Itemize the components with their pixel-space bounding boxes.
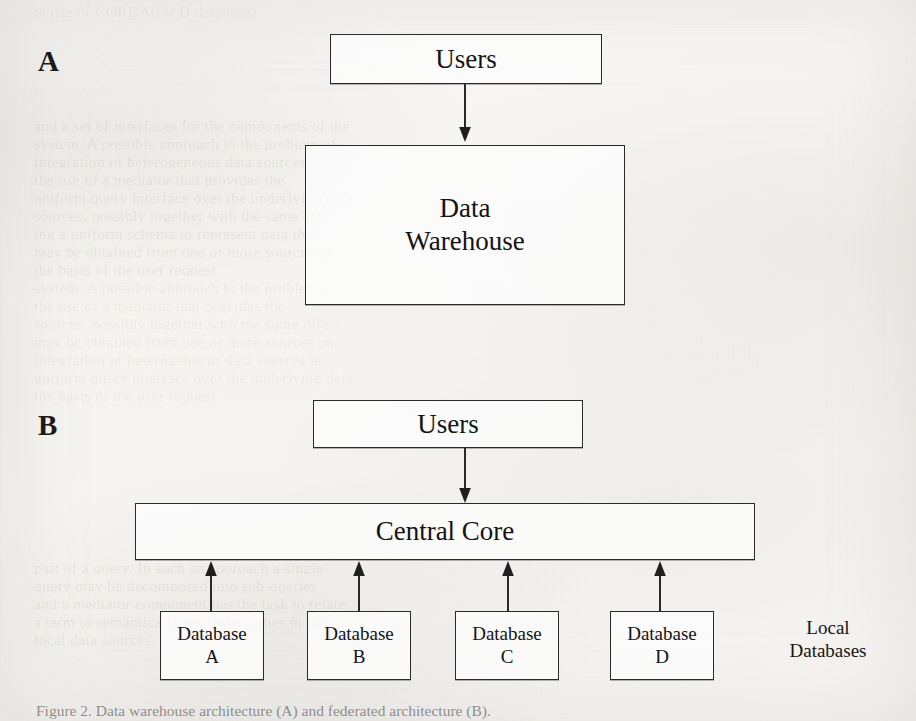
arrow-database-c-to-core <box>496 560 520 612</box>
node-central-core-label: Central Core <box>376 516 515 547</box>
panel-label-b: B <box>38 411 57 440</box>
node-users-panel-a: Users <box>330 34 602 84</box>
ghost-text-line: uniform query interface over the underly… <box>34 370 886 384</box>
node-database-b: Database B <box>307 611 411 680</box>
figure-caption: Figure 2. Data warehouse architecture (A… <box>36 702 886 720</box>
node-users-panel-b-label: Users <box>417 409 479 440</box>
ghost-text-line: te iste of CORBA(for D database) <box>34 4 886 18</box>
arrow-database-b-to-core <box>347 560 371 612</box>
ghost-text-line: sources, possibly together with the same… <box>34 316 886 330</box>
ghost-text-line: query may be decomposed into sub-queries <box>34 578 886 592</box>
node-data-warehouse: Data Warehouse <box>305 145 625 305</box>
ghost-text-line: integration of heterogeneous data source… <box>34 352 886 366</box>
arrow-users-to-central-core <box>452 447 478 505</box>
node-database-c-label: Database C <box>472 623 542 668</box>
node-users-panel-a-label: Users <box>435 44 497 75</box>
arrow-database-d-to-core <box>648 560 672 612</box>
figure-page: te iste of CORBA(for D database) and a s… <box>0 0 916 721</box>
ghost-text-line: and a mediator component has the task to… <box>34 596 886 610</box>
node-central-core: Central Core <box>135 503 755 560</box>
node-users-panel-b: Users <box>313 400 583 448</box>
node-database-a-label: Database A <box>177 623 247 668</box>
node-database-b-label: Database B <box>324 623 394 668</box>
node-data-warehouse-label: Data Warehouse <box>405 192 524 258</box>
node-database-d: Database D <box>610 611 714 680</box>
local-databases-group-label: Local Databases <box>758 616 898 662</box>
ghost-text-line: may be obtained from one or more sources… <box>34 334 886 348</box>
panel-label-a: A <box>38 47 59 76</box>
node-database-a: Database A <box>160 611 264 680</box>
node-database-c: Database C <box>455 611 559 680</box>
ghost-text-line: part of a query. In such an approach a s… <box>34 560 886 574</box>
node-database-d-label: Database D <box>627 623 697 668</box>
arrow-users-to-data-warehouse <box>452 84 478 144</box>
arrow-database-a-to-core <box>199 560 223 612</box>
